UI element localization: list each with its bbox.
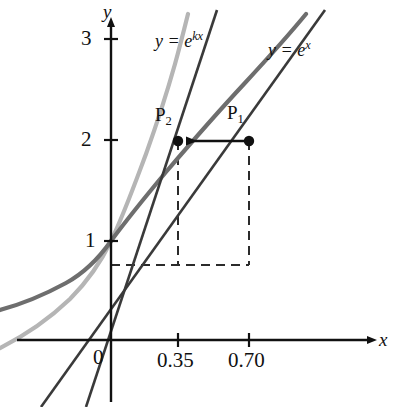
y-tick-label-2: 2 [81, 129, 92, 150]
curve-label-exp-kx: y = ekx [155, 30, 203, 50]
x-tick-label-070: 0.70 [228, 350, 265, 371]
y-tick-label-3: 3 [81, 28, 92, 49]
secant-line-p2 [86, 10, 217, 407]
y-tick-label-1: 1 [85, 230, 96, 251]
curve-label-exp-x: y = ex [268, 39, 311, 59]
origin-label: 0 [93, 347, 104, 368]
curve-label-exp-kx-exponent: kx [192, 29, 203, 43]
curve-label-exp-kx-text: y = e [155, 31, 192, 51]
point-label-p2: P2 [155, 105, 172, 128]
curve-exp-x [0, 14, 306, 310]
exponential-tangent-figure: y x 3 2 1 0 0.35 0.70 y = ekx y = ex P2 … [0, 0, 396, 407]
x-axis-label: x [379, 330, 387, 349]
point-label-p2-text: P [155, 104, 166, 125]
marker-p1 [244, 136, 254, 146]
dashed-construction [111, 141, 249, 265]
point-label-p1: P1 [227, 103, 244, 126]
x-tick-label-035: 0.35 [157, 350, 194, 371]
curve-label-exp-x-exponent: x [305, 38, 310, 52]
point-label-p1-sub: 1 [238, 112, 244, 126]
curve-label-exp-x-text: y = e [268, 40, 305, 60]
point-label-p2-sub: 2 [166, 114, 172, 128]
plot-canvas [0, 0, 396, 407]
marker-p2 [173, 136, 183, 146]
y-axis-label: y [103, 2, 111, 21]
point-label-p1-text: P [227, 102, 238, 123]
